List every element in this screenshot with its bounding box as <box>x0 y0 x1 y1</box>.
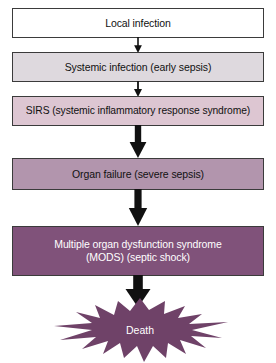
sepsis-progression-diagram: Local infection Systemic infection (earl… <box>0 0 276 363</box>
connector-arrow-systemic-to-sirs <box>131 81 145 97</box>
stage-box-organ-failure: Organ failure (severe sepsis) <box>12 158 264 190</box>
death-starburst: Death <box>52 296 228 363</box>
connector-arrow-local-to-systemic <box>131 37 145 53</box>
stage-label-mods: Multiple organ dysfunction syndrome (MOD… <box>50 238 226 264</box>
stage-box-local-infection: Local infection <box>12 8 264 38</box>
stage-box-systemic-infection: Systemic infection (early sepsis) <box>12 52 264 82</box>
stage-label-local-infection: Local infection <box>101 17 175 30</box>
stage-box-mods: Multiple organ dysfunction syndrome (MOD… <box>12 226 264 276</box>
stage-box-sirs: SIRS (systemic inflammatory response syn… <box>12 96 264 126</box>
stage-label-sirs: SIRS (systemic inflammatory response syn… <box>22 105 254 118</box>
stage-label-organ-failure: Organ failure (severe sepsis) <box>68 168 208 181</box>
connector-arrow-organ-failure-to-mods <box>127 189 149 227</box>
stage-label-systemic-infection: Systemic infection (early sepsis) <box>61 61 216 74</box>
connector-arrow-sirs-to-organ-failure <box>128 125 148 159</box>
